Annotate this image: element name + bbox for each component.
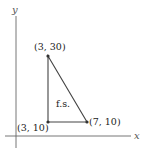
region-label: f.s.	[56, 98, 70, 109]
y-axis-label: y	[11, 4, 18, 15]
x-axis-label: x	[134, 130, 140, 141]
vertex-label-7-10: (7, 10)	[89, 116, 121, 127]
feasible-set-triangle	[48, 56, 87, 122]
vertex-label-3-10: (3, 10)	[17, 122, 49, 133]
vertex-3-30	[46, 54, 49, 57]
vertex-label-3-30: (3, 30)	[34, 41, 66, 52]
feasible-region-diagram: y x (3, 30) (3, 10) (7, 10) f.s.	[0, 0, 143, 152]
